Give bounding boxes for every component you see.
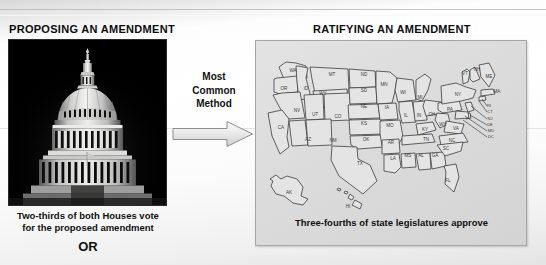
state-label-sc: SC [443,146,450,151]
state-label-in: IN [417,113,422,118]
state-label-nc: NC [449,138,456,143]
state-label-nj: NJ [487,116,492,121]
state-label-wv: WV [439,122,447,127]
state-label-ak: AK [286,190,293,195]
map-inner-area: WAORIDMTNDSDNEKSOKTXWYNVUTCOCAAZNMMNIAMO… [260,45,523,242]
state-label-dc: DC [488,134,494,139]
us-capitol-dome-photo [9,40,166,205]
state-label-vt: VT [462,71,468,76]
method-line-1: Most [176,70,252,84]
state-label-ms: MS [405,153,412,158]
state-label-fl: FL [445,178,451,183]
state-label-wa: WA [289,68,297,73]
state-label-oh: OH [429,112,436,117]
state-label-il: IL [404,113,408,118]
right-arrow-icon [172,120,254,148]
state-label-tn: TN [423,137,429,142]
state-label-la: LA [390,156,397,161]
state-label-md: MD [488,128,494,133]
proposing-caption-line-2: for the proposed amendment [4,222,172,234]
state-label-nv: NV [294,108,301,113]
united-states-map: WAORIDMTNDSDNEKSOKTXWYNVUTCOCAAZNMMNIAMO… [260,45,523,220]
state-label-nd: ND [361,72,368,77]
state-label-ca: CA [278,125,285,130]
state-label-ok: OK [363,137,371,142]
state-label-mo: MO [386,123,394,128]
proposing-section-title: PROPOSING AN AMENDMENT [9,23,175,35]
state-label-ar: AR [388,140,395,145]
state-label-al: AL [418,153,424,158]
state-label-sd: SD [361,88,368,93]
proposing-caption: Two-thirds of both Houses vote for the p… [4,210,172,234]
state-label-id: ID [304,86,309,91]
state-label-ma: MA [494,89,502,94]
state-label-ri: RI [487,103,491,108]
state-label-nh: NH [474,67,481,72]
state-label-hi: HI [346,204,351,209]
state-label-ny: NY [455,92,461,97]
state-label-de: DE [487,122,493,127]
state-label-mn: MN [380,82,387,87]
top-divider-line-secondary [0,15,546,16]
state-label-ks: KS [361,121,367,126]
state-label-mt: MT [329,72,336,77]
state-label-ne: NE [361,104,367,109]
state-label-az: AZ [305,137,311,142]
state-label-ky: KY [422,127,428,132]
ratifying-caption: Three-fourths of state legislatures appr… [260,217,523,228]
state-label-ga: GA [432,153,440,158]
leader-label-group: RICTNJDEMDDC [487,103,494,139]
proposing-caption-line-1: Two-thirds of both Houses vote [4,210,172,222]
state-label-nm: NM [329,138,336,143]
state-label-co: CO [335,114,342,119]
state-label-wi: WI [400,90,406,95]
top-divider-line [0,9,546,10]
state-label-pa: PA [447,107,454,112]
state-label-or: OR [281,86,289,91]
state-label-ct: CT [487,109,493,114]
state-label-va: VA [453,126,460,131]
ratifying-section-title: RATIFYING AN AMENDMENT [313,23,471,35]
state-label-mi: MI [417,95,422,100]
method-line-2: Common [176,84,252,98]
ratifying-map-panel: WAORIDMTNDSDNEKSOKTXWYNVUTCOCAAZNMMNIAMO… [255,40,527,246]
or-connector-label: OR [4,239,172,255]
state-label-ut: UT [312,112,318,117]
state-label-me: ME [486,74,493,79]
slide-canvas: PROPOSING AN AMENDMENT [0,0,546,265]
most-common-method-label: Most Common Method [176,70,252,111]
method-line-3: Method [176,97,252,111]
state-label-tx: TX [357,161,363,166]
state-label-wy: WY [319,91,326,96]
